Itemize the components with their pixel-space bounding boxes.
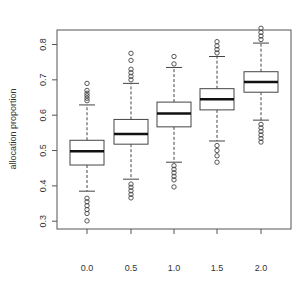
box-0.0 xyxy=(70,81,104,223)
outlier-point xyxy=(215,39,219,43)
iqr-box xyxy=(70,140,104,165)
outlier-point xyxy=(129,51,133,55)
y-tick-label: 0.7 xyxy=(38,74,48,87)
outlier-point xyxy=(129,58,133,62)
outlier-point xyxy=(85,88,89,92)
y-tick-label: 0.4 xyxy=(38,180,48,193)
outlier-point xyxy=(129,182,133,186)
x-tick-label: 0.0 xyxy=(81,263,94,273)
outlier-point xyxy=(172,54,176,58)
y-tick-label: 0.3 xyxy=(38,215,48,228)
outlier-point xyxy=(215,154,219,158)
box-2.0 xyxy=(244,26,278,144)
iqr-box xyxy=(114,119,148,144)
x-tick-label: 1.5 xyxy=(211,263,224,273)
x-tick-label: 1.0 xyxy=(168,263,181,273)
box-0.5 xyxy=(114,51,148,200)
x-tick-label: 2.0 xyxy=(255,263,268,273)
box-1.0 xyxy=(157,54,191,189)
outlier-point xyxy=(85,81,89,85)
boxplot-chart: 0.30.40.50.60.70.8 0.00.51.01.52.0 alloc… xyxy=(0,0,308,289)
outlier-point xyxy=(215,148,219,152)
y-tick-label: 0.8 xyxy=(38,38,48,51)
y-tick-label: 0.6 xyxy=(38,109,48,122)
y-axis: 0.30.40.50.60.70.8 xyxy=(38,38,57,227)
x-tick-label: 0.5 xyxy=(125,263,138,273)
box-1.5 xyxy=(200,39,234,164)
outlier-point xyxy=(215,160,219,164)
outlier-point xyxy=(85,219,89,223)
box-series xyxy=(70,26,278,223)
outlier-point xyxy=(215,143,219,147)
outlier-point xyxy=(172,62,176,66)
y-axis-title: allocation proportion xyxy=(8,88,18,169)
outlier-point xyxy=(172,185,176,189)
x-axis: 0.00.51.01.52.0 xyxy=(81,229,268,273)
y-tick-label: 0.5 xyxy=(38,144,48,157)
